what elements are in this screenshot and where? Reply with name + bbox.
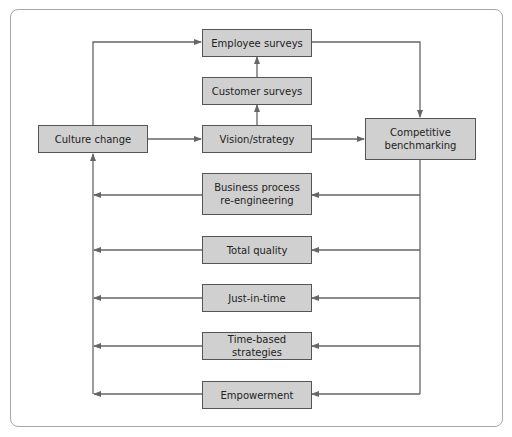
node-label: Just-in-time	[228, 292, 285, 305]
node-time-based-strategies: Time-based strategies	[202, 332, 312, 360]
node-empowerment: Empowerment	[202, 381, 312, 409]
connector-layer	[0, 0, 512, 437]
node-label: Business process re-engineering	[214, 181, 300, 207]
node-label: Culture change	[55, 133, 131, 146]
edge-employee-to-benchmarking	[311, 42, 420, 117]
node-label: Customer surveys	[212, 85, 303, 98]
node-culture-change: Culture change	[38, 125, 148, 153]
node-label: Total quality	[227, 244, 288, 257]
node-just-in-time: Just-in-time	[202, 284, 312, 312]
node-business-process-reengineering: Business process re-engineering	[202, 173, 312, 215]
node-total-quality: Total quality	[202, 236, 312, 264]
node-vision-strategy: Vision/strategy	[202, 125, 312, 153]
node-label: Empowerment	[221, 389, 294, 402]
node-label: Vision/strategy	[220, 133, 295, 146]
node-competitive-benchmarking: Competitive benchmarking	[365, 118, 476, 160]
node-employee-surveys: Employee surveys	[202, 29, 312, 57]
node-label: Time-based strategies	[203, 333, 311, 359]
node-label: Competitive benchmarking	[385, 126, 457, 152]
edge-culture-to-employee	[93, 42, 201, 125]
node-customer-surveys: Customer surveys	[202, 77, 312, 105]
node-label: Employee surveys	[211, 37, 303, 50]
